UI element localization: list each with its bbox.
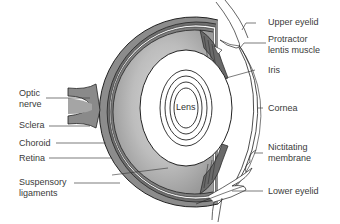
- label-iris: Iris: [268, 65, 280, 76]
- label-choroid: Choroid: [19, 138, 51, 149]
- label-text: Nictitating: [268, 142, 311, 153]
- upper-eyelid-shape: [214, 0, 248, 54]
- label-nictitating-membrane: Nictitating membrane: [268, 142, 311, 164]
- label-lower-eyelid: Lower eyelid: [268, 186, 319, 197]
- label-protractor-lentis-muscle: Protractor lentis muscle: [268, 34, 320, 56]
- label-sclera: Sclera: [19, 120, 45, 131]
- eye-diagram: Lens Optic nerve Sclera Choroid Retina S…: [0, 0, 340, 224]
- label-text: Protractor: [268, 34, 320, 45]
- label-text: membrane: [268, 153, 311, 164]
- label-text: ligaments: [19, 188, 67, 199]
- label-retina: Retina: [19, 153, 45, 164]
- label-text: Suspensory: [19, 177, 67, 188]
- label-optic-nerve: Optic nerve: [19, 88, 42, 110]
- label-text: Optic: [19, 88, 42, 99]
- optic-nerve-shape: [68, 84, 100, 128]
- label-cornea: Cornea: [268, 103, 298, 114]
- lens-label: Lens: [176, 102, 196, 112]
- label-text: lentis muscle: [268, 45, 320, 56]
- label-text: nerve: [19, 99, 42, 110]
- label-upper-eyelid: Upper eyelid: [268, 17, 319, 28]
- label-suspensory-ligaments: Suspensory ligaments: [19, 177, 67, 199]
